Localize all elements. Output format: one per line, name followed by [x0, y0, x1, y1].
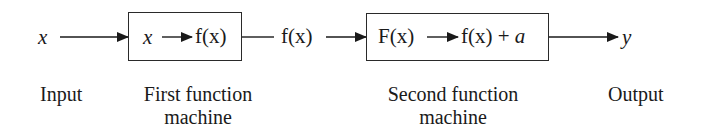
input-label: Input: [40, 83, 82, 106]
intermediate-value: f(x): [281, 26, 312, 47]
second-machine-label-line1: Second function: [373, 83, 533, 106]
first-machine-label-line2: machine: [128, 106, 268, 129]
output-label: Output: [608, 83, 664, 106]
second-rule-output: f(x) + a: [461, 26, 525, 47]
first-rule-input: x: [143, 27, 152, 48]
second-rule-constant: a: [515, 24, 526, 48]
connector-arrows: [0, 0, 704, 137]
input-symbol: x: [38, 27, 47, 48]
second-rule-function: f(x) +: [461, 24, 515, 48]
first-rule-output: f(x): [195, 26, 226, 47]
output-symbol: y: [622, 27, 631, 48]
first-machine-label-line1: First function: [128, 83, 268, 106]
second-rule-input: F(x): [378, 26, 414, 47]
second-machine-label: Second function machine: [373, 83, 533, 129]
second-machine-label-line2: machine: [373, 106, 533, 129]
first-machine-label: First function machine: [128, 83, 268, 129]
